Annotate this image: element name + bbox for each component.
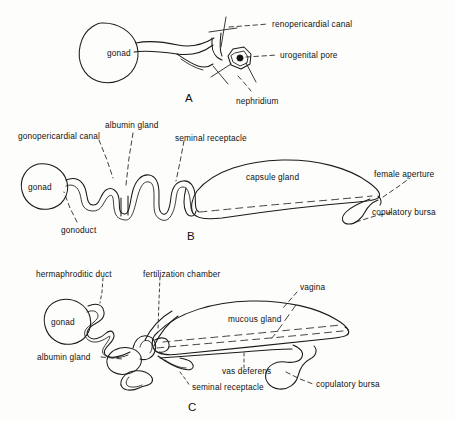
panel-b-capsule-gland-label: capsule gland xyxy=(246,172,299,182)
panel-c-leader-fertilization xyxy=(158,277,160,330)
panel-a-renopericardial-canal-label: renopericardial canal xyxy=(272,19,352,29)
panel-a-nephridium-stroke1 xyxy=(246,63,256,82)
panel-b-gonoduct-label: gonoduct xyxy=(61,225,97,235)
panel-c-fertilization-chamber-inner xyxy=(140,340,152,353)
panel-c-mucous-gland-outline xyxy=(152,301,348,355)
panel-b-leader-gonopericardial xyxy=(99,140,113,178)
panel-c-vagina-aperture xyxy=(345,327,349,335)
panel-a-nephridium-stroke3 xyxy=(213,66,228,84)
panel-b-gonad-label: gonad xyxy=(28,182,52,192)
panel-a-gonad-label: gonad xyxy=(107,48,131,58)
panel-b-leader-seminal xyxy=(176,141,184,181)
panel-c-gonad-label: gonad xyxy=(51,317,75,327)
panel-b-copulatory-bursa-label: copulatory bursa xyxy=(372,207,436,217)
panel-c: gonad hermaphroditic duct fertilization … xyxy=(36,269,380,413)
panel-a-gonoduct-upper xyxy=(136,38,214,46)
panel-c-albumin-gland-label: albumin gland xyxy=(37,352,91,362)
panel-b-capsule-gland-outline xyxy=(192,160,380,219)
panel-a-letter: A xyxy=(185,92,193,104)
panel-b-gonopericardial-canal-label: gonopericardial canal xyxy=(18,131,100,141)
panel-b-female-aperture-label: female aperture xyxy=(374,169,435,179)
panel-a-leader-nephridium xyxy=(238,76,251,91)
panel-b-leader-gonoduct xyxy=(64,192,77,222)
panel-a: gonad renopericardial canal urogenital p… xyxy=(79,17,352,106)
panel-a-gonoduct-lower xyxy=(134,45,213,55)
panel-a-leader-renopericardial xyxy=(229,24,268,27)
panel-c-leader-vagina xyxy=(283,292,297,308)
panel-c-seminal-receptacle-label: seminal receptacle xyxy=(192,382,264,392)
panel-b-gonoduct-outer xyxy=(66,175,199,214)
panel-c-leader-seminal xyxy=(180,372,190,386)
panel-b-albumin-gland-label: albumin gland xyxy=(105,120,159,130)
anatomical-figure: gonad renopericardial canal urogenital p… xyxy=(0,0,455,422)
panel-a-canal-tick2 xyxy=(209,28,237,32)
panel-b-seminal-receptacle-label: seminal receptacle xyxy=(175,133,247,143)
panel-b-leader-albumin xyxy=(126,133,133,185)
figure-canvas: gonad renopericardial canal urogenital p… xyxy=(0,0,455,422)
panel-c-fertilization-chamber-label: fertilization chamber xyxy=(143,269,220,279)
panel-a-canal-tick xyxy=(221,17,226,47)
panel-c-copulatory-bursa-label: copulatory bursa xyxy=(316,379,380,389)
panel-c-albumin-gland-lobe-inner xyxy=(126,377,142,387)
panel-a-urogenital-pore-label: urogenital pore xyxy=(280,50,338,60)
panel-b-leader-female-aperture xyxy=(383,178,410,197)
panel-c-hermaphroditic-duct-label: hermaphroditic duct xyxy=(36,269,112,279)
panel-a-urogenital-pore-dot xyxy=(237,55,243,61)
panel-c-vagina-label: vagina xyxy=(300,282,326,292)
panel-c-leader-hermaphroditic xyxy=(100,278,103,303)
panel-c-hermaphroditic-duct-outer xyxy=(87,304,130,357)
panel-a-nephridium-label: nephridium xyxy=(236,96,279,106)
panel-b-letter: B xyxy=(187,230,195,242)
panel-c-vas-deferens-label: vas deferens xyxy=(222,366,271,376)
panel-c-leader-copulatory xyxy=(286,372,313,384)
panel-c-letter: C xyxy=(188,401,197,413)
panel-c-mucous-gland-label: mucous gland xyxy=(228,314,282,324)
panel-b: gonad gonopericardial canal albumin glan… xyxy=(18,120,436,242)
panel-a-duct-branch-edge xyxy=(181,59,203,70)
panel-c-hermaphroditic-duct-inner xyxy=(85,311,128,358)
